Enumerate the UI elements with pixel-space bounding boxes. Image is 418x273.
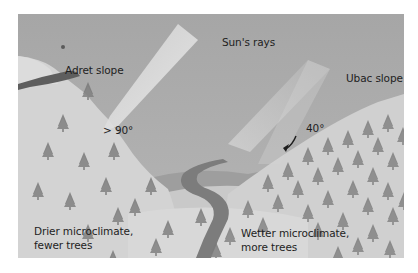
label-ubac-description-1: Wetter microclimate, (241, 227, 349, 240)
label-adret-description-1: Drier microclimate, (34, 225, 133, 238)
diagram-frame: Sun's rays Adret slope Ubac slope > 90° … (18, 14, 404, 258)
label-ubac-description-2: more trees (241, 241, 297, 254)
label-adret-description-2: fewer trees (34, 239, 92, 252)
landscape-illustration (18, 14, 404, 258)
bird-dot (61, 45, 65, 49)
label-sun-rays: Sun's rays (222, 36, 275, 49)
label-adret-slope: Adret slope (65, 64, 124, 77)
label-ubac-angle: 40° (306, 122, 324, 135)
label-ubac-slope: Ubac slope (346, 72, 403, 85)
label-adret-angle: > 90° (103, 124, 133, 137)
